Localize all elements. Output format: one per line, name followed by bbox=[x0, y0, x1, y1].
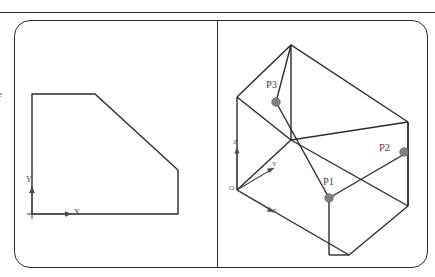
point-label-p2: P2 bbox=[379, 143, 390, 154]
point-label-p3: P3 bbox=[266, 80, 277, 91]
ortho-origin-ticks bbox=[27, 209, 37, 219]
drawing-canvas: X Y Z Y X O P1 P2 P3 e bbox=[0, 0, 435, 277]
iso-origin-label: O bbox=[229, 185, 234, 192]
iso-y-axis-label: Y bbox=[272, 161, 277, 168]
ortho-x-axis-label: X bbox=[74, 209, 80, 217]
iso-z-axis bbox=[234, 147, 239, 190]
vertex-dot-p1 bbox=[325, 194, 334, 203]
iso-z-axis-label: Z bbox=[233, 139, 237, 146]
iso-x-axis bbox=[237, 190, 274, 212]
drawing-geometry bbox=[0, 0, 435, 277]
vertex-dot-p3 bbox=[272, 98, 281, 107]
left-margin-glyph: e bbox=[0, 90, 2, 99]
orthographic-outline bbox=[32, 94, 178, 214]
vertex-dot-p2 bbox=[400, 148, 409, 157]
iso-x-axis-label: X bbox=[272, 208, 277, 215]
ortho-y-axis-label: Y bbox=[26, 176, 32, 184]
iso-y-axis bbox=[237, 168, 274, 190]
point-label-p1: P1 bbox=[323, 177, 334, 188]
ortho-x-axis bbox=[32, 211, 72, 217]
